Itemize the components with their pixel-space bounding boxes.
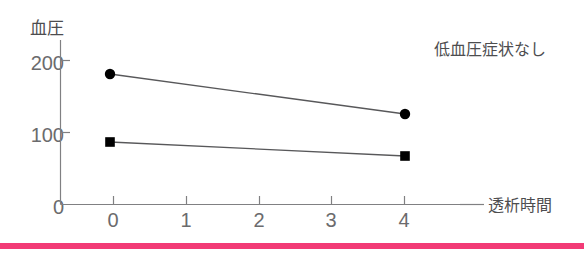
blood-pressure-dialysis-chart: 血圧 低血圧症状なし 200 100 0 0 1 2 3 4 透析時間 <box>0 0 584 262</box>
series-systolic-line <box>110 74 405 114</box>
bottom-accent-rule <box>0 243 584 249</box>
data-point-systolic-0h <box>105 69 115 79</box>
data-point-diastolic-4h <box>400 151 410 161</box>
data-point-diastolic-0h <box>105 137 115 147</box>
plot-area <box>0 0 584 262</box>
series-diastolic-line <box>110 142 405 156</box>
data-point-systolic-4h <box>400 109 410 119</box>
